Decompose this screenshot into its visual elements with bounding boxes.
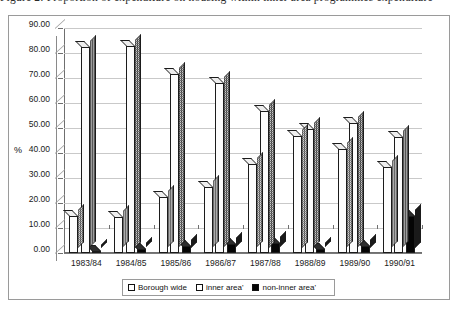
bar-side-face: [224, 71, 230, 247]
x-tick-mark: [288, 225, 289, 229]
bar-front-face: [227, 244, 236, 253]
x-tick-mark: [154, 225, 155, 229]
legend-swatch-icon: [128, 284, 135, 291]
bar[interactable]: [248, 164, 257, 253]
legend-item-borough-wide[interactable]: Borough wide: [128, 283, 187, 292]
gridline: [64, 253, 422, 254]
bar-side-face: [370, 234, 376, 248]
y-tick-label: 70.00: [29, 69, 50, 79]
y-tick-label: 0.00: [33, 244, 50, 254]
bar[interactable]: [159, 197, 168, 253]
bar-side-face: [392, 155, 398, 247]
bar-front-face: [114, 217, 123, 253]
chart-legend: Borough wide inner area' non-inner area': [122, 279, 335, 296]
legend-label: Borough wide: [138, 283, 187, 292]
bar-group: [154, 28, 199, 253]
bar[interactable]: [338, 149, 347, 253]
bar[interactable]: [92, 251, 101, 254]
x-tick-mark: [243, 225, 244, 229]
bar-group: [333, 28, 378, 253]
bar-group: [377, 28, 422, 253]
bar[interactable]: [114, 217, 123, 253]
bar-side-face: [257, 152, 263, 247]
bar-side-face: [236, 232, 242, 247]
bar[interactable]: [137, 249, 146, 253]
bar-side-face: [101, 239, 107, 248]
bar-side-face: [168, 185, 174, 247]
y-tick-label: 80.00: [29, 44, 50, 54]
bar-group: [243, 28, 288, 253]
x-tick-mark: [422, 225, 423, 229]
bar-front-face: [248, 164, 257, 253]
x-tick-label: 1988/89: [288, 258, 333, 268]
figure-caption: Figure 2: Proportion of expenditure on h…: [0, 0, 460, 7]
bar-front-face: [204, 187, 213, 253]
y-tick-label: 50.00: [29, 119, 50, 129]
bar-front-face: [137, 249, 146, 253]
x-tick-label: 1990/91: [377, 258, 422, 268]
plot-area: [64, 28, 422, 253]
bar-side-face: [280, 231, 286, 247]
bar-front-face: [316, 249, 325, 253]
x-tick-label: 1987/88: [243, 258, 288, 268]
legend-label: inner area': [206, 283, 244, 292]
bar[interactable]: [271, 243, 280, 253]
bar[interactable]: [182, 246, 191, 254]
x-tick-mark: [333, 225, 334, 229]
bar-side-face: [415, 204, 421, 248]
bar[interactable]: [361, 246, 370, 254]
x-tick-label: 1989/90: [333, 258, 378, 268]
bar-front-face: [361, 246, 370, 254]
bar-group: [109, 28, 154, 253]
y-tick-label: 60.00: [29, 94, 50, 104]
bar[interactable]: [69, 216, 78, 254]
y-tick-label: 10.00: [29, 219, 50, 229]
bar-front-face: [159, 197, 168, 253]
bar-group: [64, 28, 109, 253]
y-axis-ticks: 0.0010.0020.0030.0040.0050.0060.0070.008…: [0, 28, 58, 253]
y-tick-label: 90.00: [29, 19, 50, 29]
bar[interactable]: [204, 187, 213, 253]
y-tick-label: 40.00: [29, 144, 50, 154]
bar[interactable]: [316, 249, 325, 253]
bar-front-face: [92, 251, 101, 254]
legend-item-inner-area[interactable]: inner area': [196, 283, 244, 292]
bar-side-face: [213, 175, 219, 247]
bar-side-face: [325, 237, 331, 247]
x-tick-mark: [109, 225, 110, 229]
bar-front-face: [69, 216, 78, 254]
bar-front-face: [338, 149, 347, 253]
bar-side-face: [302, 124, 308, 248]
legend-item-non-inner-area[interactable]: non-inner area': [252, 283, 316, 292]
legend-label: non-inner area': [262, 283, 316, 292]
x-tick-mark: [64, 225, 65, 229]
x-tick-mark: [377, 225, 378, 229]
bar-side-face: [135, 34, 141, 248]
bar-group: [288, 28, 333, 253]
bar-side-face: [347, 137, 353, 247]
bar-side-face: [146, 237, 152, 247]
bar-side-face: [90, 35, 96, 247]
x-tick-label: 1985/86: [154, 258, 199, 268]
bar[interactable]: [383, 167, 392, 253]
y-tick-label: 30.00: [29, 169, 50, 179]
bar-side-face: [403, 125, 409, 247]
chart-screenshot: Figure 2: Proportion of expenditure on h…: [0, 0, 460, 312]
bar-side-face: [78, 204, 84, 248]
bar-side-face: [179, 62, 185, 247]
bar-side-face: [269, 99, 275, 248]
x-tick-mark: [198, 225, 199, 229]
bar-side-face: [191, 234, 197, 248]
bar-side-face: [314, 117, 320, 247]
bar[interactable]: [293, 136, 302, 254]
bar-front-face: [293, 136, 302, 254]
bar-side-face: [358, 111, 364, 247]
bar-group: [198, 28, 243, 253]
bar-front-face: [383, 167, 392, 253]
x-tick-label: 1986/87: [198, 258, 243, 268]
bar[interactable]: [227, 244, 236, 253]
bar-side-face: [123, 205, 129, 247]
y-tick-label: 20.00: [29, 194, 50, 204]
legend-swatch-icon: [252, 284, 259, 291]
x-tick-label: 1984/85: [109, 258, 154, 268]
